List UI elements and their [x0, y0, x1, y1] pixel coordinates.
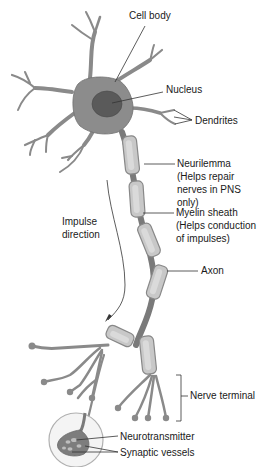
label-axon: Axon [201, 265, 224, 276]
label-myelin-sheath: Myelin sheath [176, 207, 238, 218]
neuron-diagram: Cell body Nucleus Dendrites Neurilemma (… [0, 0, 273, 467]
label-neurilemma-desc-2: nerves in PNS [177, 184, 241, 195]
label-dendrites: Dendrites [195, 115, 238, 126]
nucleus [92, 91, 122, 117]
label-impulse: Impulse [62, 216, 97, 227]
label-synaptic-vessels: Synaptic vessels [120, 447, 194, 458]
label-neurotransmitter: Neurotransmitter [120, 431, 195, 442]
label-nucleus: Nucleus [166, 84, 202, 95]
label-myelin-desc-1: (Helps conduction [176, 220, 256, 231]
label-direction: direction [62, 229, 100, 240]
label-nerve-terminal: Nerve terminal [190, 390, 255, 401]
label-neurilemma-desc-1: (Helps repair [177, 171, 235, 182]
label-neurilemma: Neurilemma [177, 158, 231, 169]
label-cell-body: Cell body [129, 10, 171, 21]
impulse-direction-arrow [105, 180, 125, 322]
label-myelin-desc-2: of impulses) [176, 233, 230, 244]
